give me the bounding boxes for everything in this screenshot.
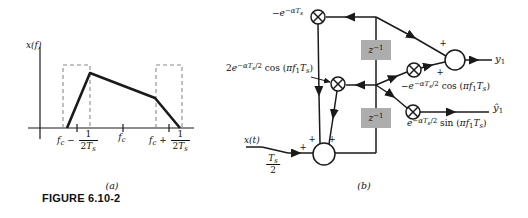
fraction-numerator: 1 <box>171 130 190 141</box>
fraction: Ts2 <box>266 154 280 176</box>
plus-sign: + <box>328 135 335 144</box>
spectrum-curve <box>67 73 180 128</box>
fraction-denominator: 2Ts <box>79 141 98 151</box>
tick-label-fc-minus: fc − 12Ts <box>57 130 99 152</box>
coefficient-cos-label: −e−αTs/2 cos (πf1Ts) <box>401 82 490 91</box>
multiplier-cos <box>407 63 421 77</box>
tick-left-pre: fc − <box>57 136 78 145</box>
multiplier-top <box>311 10 325 24</box>
coefficient-sin-label: e−αTs/2 sin (πf1Ts) <box>407 119 487 128</box>
multiplier-mid <box>331 77 345 91</box>
output-y1-label: y1 <box>495 54 505 64</box>
dashed-window-left <box>63 65 90 128</box>
adder-top <box>445 50 465 70</box>
tick-right-pre: fc + <box>149 136 170 145</box>
adder-bottom <box>313 143 335 165</box>
sampler-switch-arm <box>262 147 288 153</box>
tick-label-fc: fc <box>118 133 125 142</box>
input-signal-label: x(t) <box>244 136 260 145</box>
figure-graphics <box>0 0 528 218</box>
figure-6-10-2: x(f) fc − 12Ts fc fc + 12Ts (a) FIGURE 6… <box>0 0 528 218</box>
fraction-denominator: 2 <box>266 165 280 175</box>
coefficient-top-label: −e−αTs <box>272 9 303 18</box>
multiplier-top-output <box>318 24 320 143</box>
delay-label-2: z−1 <box>368 114 383 123</box>
sample-rate-label: Ts2 <box>265 154 281 176</box>
plus-sign: + <box>439 39 446 48</box>
dashed-window-right <box>156 65 182 128</box>
caption-b: (b) <box>357 181 371 191</box>
tick-label-fc-plus: fc + 12Ts <box>149 130 191 152</box>
spectrum-axis-label: x(f) <box>26 41 41 50</box>
coefficient-mid-label: 2e−αTs/2 cos (πf1Ts) <box>226 64 313 73</box>
fraction: 12Ts <box>79 130 98 152</box>
coeff-pointer-line <box>311 77 330 82</box>
plus-sign: + <box>299 143 306 152</box>
output-y1hat-label: ŷ1 <box>493 103 503 113</box>
caption-a: (a) <box>105 181 118 191</box>
spectrum-axes <box>28 47 194 139</box>
figure-title: FIGURE 6.10-2 <box>42 193 120 204</box>
fraction-numerator: Ts <box>266 154 280 165</box>
delay-label-1: z−1 <box>368 46 383 55</box>
fraction: 12Ts <box>171 130 190 152</box>
fraction-denominator: 2Ts <box>171 141 190 151</box>
plus-sign: + <box>436 68 443 77</box>
plus-sign: + <box>308 135 315 144</box>
fraction-numerator: 1 <box>79 130 98 141</box>
